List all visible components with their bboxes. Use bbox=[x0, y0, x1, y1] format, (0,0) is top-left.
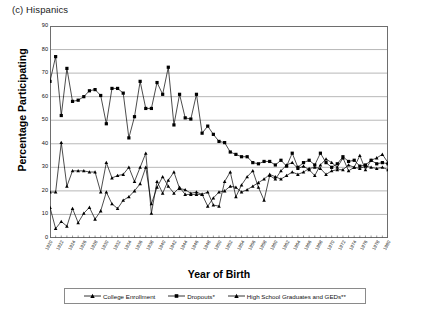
x-tick-label: 1976 bbox=[361, 240, 370, 251]
x-axis-label: Year of Birth bbox=[50, 268, 388, 280]
y-tick-label: 70 bbox=[32, 70, 48, 76]
legend-label: Dropouts* bbox=[187, 293, 215, 300]
y-tick-label: 80 bbox=[32, 47, 48, 53]
panel-title: (c) Hispanics bbox=[12, 4, 68, 15]
triangle-marker-icon bbox=[228, 292, 245, 300]
y-axis-label: Percentage Participating bbox=[16, 20, 28, 200]
x-tick-label: 1926 bbox=[79, 240, 88, 251]
x-axis-ticks: 1920192219241926192819301932193419361938… bbox=[50, 240, 388, 268]
x-tick-marks bbox=[50, 236, 388, 239]
x-tick-label: 1964 bbox=[293, 240, 302, 251]
x-tick-label: 1978 bbox=[372, 240, 381, 251]
x-tick-label: 1970 bbox=[327, 240, 336, 251]
x-tick-label: 1934 bbox=[124, 240, 133, 251]
x-tick-label: 1932 bbox=[113, 240, 122, 251]
y-tick-label: 20 bbox=[32, 188, 48, 194]
x-tick-label: 1966 bbox=[304, 240, 313, 251]
square-marker-icon bbox=[168, 292, 185, 300]
x-tick-label: 1942 bbox=[169, 240, 178, 251]
x-tick-label: 1960 bbox=[271, 240, 280, 251]
x-tick-label: 1928 bbox=[90, 240, 99, 251]
chart-figure: (c) Hispanics Percentage Participating 0… bbox=[0, 0, 422, 324]
x-tick-label: 1962 bbox=[282, 240, 291, 251]
x-tick-label: 1952 bbox=[225, 240, 234, 251]
x-tick-label: 1944 bbox=[180, 240, 189, 251]
legend-item: Dropouts* bbox=[168, 292, 215, 300]
x-tick-label: 1924 bbox=[68, 240, 77, 251]
y-tick-label: 50 bbox=[32, 117, 48, 123]
x-tick-label: 1946 bbox=[192, 240, 201, 251]
x-tick-label: 1968 bbox=[316, 240, 325, 251]
x-tick-label: 1956 bbox=[248, 240, 257, 251]
triangle-marker-icon bbox=[84, 292, 101, 300]
y-tick-label: 0 bbox=[32, 235, 48, 241]
x-tick-label: 1972 bbox=[338, 240, 347, 251]
x-tick-label: 1922 bbox=[56, 240, 65, 251]
y-axis-ticks: 0102030405060708090 bbox=[28, 26, 48, 238]
x-tick-label: 1940 bbox=[158, 240, 167, 251]
y-tick-label: 10 bbox=[32, 212, 48, 218]
legend-item: College Enrollment bbox=[84, 292, 155, 300]
legend-label: High School Graduates and GEDs** bbox=[247, 293, 346, 300]
series-3 bbox=[50, 163, 388, 230]
legend-label: College Enrollment bbox=[103, 293, 155, 300]
x-tick-label: 1958 bbox=[259, 240, 268, 251]
plot-svg bbox=[50, 26, 388, 238]
x-tick-label: 1954 bbox=[237, 240, 246, 251]
legend-item: High School Graduates and GEDs** bbox=[228, 292, 346, 300]
y-tick-label: 60 bbox=[32, 94, 48, 100]
x-tick-label: 1950 bbox=[214, 240, 223, 251]
y-tick-label: 90 bbox=[32, 23, 48, 29]
plot-area bbox=[50, 26, 388, 238]
x-tick-label: 1936 bbox=[135, 240, 144, 251]
x-tick-label: 1980 bbox=[383, 240, 392, 251]
series-2 bbox=[50, 141, 388, 215]
x-tick-label: 1920 bbox=[45, 240, 54, 251]
series-1 bbox=[50, 55, 388, 169]
x-tick-label: 1938 bbox=[147, 240, 156, 251]
x-tick-label: 1948 bbox=[203, 240, 212, 251]
x-tick-label: 1930 bbox=[102, 240, 111, 251]
y-tick-label: 40 bbox=[32, 141, 48, 147]
y-tick-label: 30 bbox=[32, 165, 48, 171]
x-tick-label: 1974 bbox=[349, 240, 358, 251]
chart-legend: College EnrollmentDropouts*High School G… bbox=[64, 288, 366, 304]
